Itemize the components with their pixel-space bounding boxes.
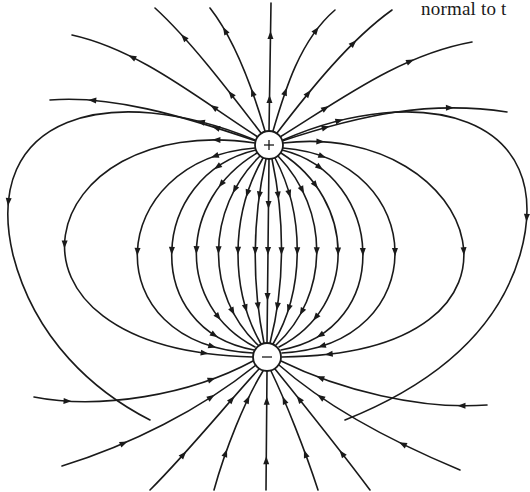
arrowhead-icon [316,138,324,144]
arrowhead-icon [228,307,237,317]
arrowhead-icon [243,395,252,405]
field-line-in-bottom [266,371,267,490]
arrowhead-icon [210,331,220,340]
arrowhead-icon [252,247,258,255]
arrowhead-icon [280,395,289,405]
arrowhead-icon [267,31,273,39]
arrowhead-icon [63,398,71,404]
arrowhead-icon [318,152,328,160]
arrowhead-icon [88,97,96,104]
arrowhead-icon [206,392,216,401]
arrowhead-icon [315,331,325,340]
field-line-loop-l1 [255,159,266,343]
arrowhead-icon [360,248,366,256]
arrowhead-icon [207,375,217,383]
arrowhead-icon [461,247,467,255]
negative-charge [253,343,281,371]
field-line-out-tr3 [280,42,472,137]
field-lines-into-negative [34,361,487,490]
field-line-loop-r1 [270,159,282,343]
arrowhead-icon [523,214,529,222]
field-line-in-bl1 [214,371,263,490]
arrowhead-icon [265,247,271,255]
arrowhead-icon [278,247,284,255]
arrowhead-icon [264,397,270,405]
arrowhead-icon [392,248,398,256]
field-line-in-br4 [281,361,487,406]
field-lines-from-positive [50,3,507,141]
arrowhead-icon [285,189,293,198]
arrowhead-icon [405,57,415,66]
dipole-field-diagram [0,0,530,492]
arrowhead-icon [243,189,251,198]
field-line-out-tl3 [72,35,258,137]
field-line-loop-r4 [279,153,338,347]
arrowhead-icon [127,53,137,62]
arrowhead-icon [210,152,220,160]
arrowhead-icon [297,307,306,317]
arrowhead-icon [255,302,262,311]
arrowhead-icon [212,137,220,143]
field-line-in-br2 [275,369,370,490]
field-line-out-tl4 [50,99,256,141]
field-line-in-bl2 [150,369,259,490]
arrowhead-icon [285,304,293,313]
arrowhead-icon [230,185,239,195]
arrowhead-icon [169,247,175,255]
arrowhead-icon [298,185,307,195]
arrowhead-icon [321,103,331,112]
field-line-loop-l7 [65,140,255,357]
arrowhead-icon [457,403,465,409]
arrowhead-icon [5,198,12,207]
arrowhead-icon [215,246,221,254]
field-line-out-tl1 [210,8,265,131]
arrowhead-icon [281,87,289,97]
field-line-loop-l5 [172,150,256,350]
arrowhead-icon [317,342,326,350]
arrowhead-icon [235,247,241,255]
arrowhead-icon [294,247,300,255]
arrowhead-icon [264,293,270,301]
arrowhead-icon [263,456,269,464]
field-line-loop-l4 [196,153,257,347]
arrowhead-icon [446,105,454,111]
arrowhead-icon [314,247,320,255]
arrowhead-icon [265,201,271,209]
arrowhead-icon [119,439,129,448]
positive-charge [255,131,283,159]
arrowhead-icon [248,88,256,98]
arrowhead-icon [266,95,272,103]
field-line-loop-r5 [281,150,363,350]
arrowhead-icon [335,247,341,255]
field-line-in-bl4 [34,361,253,402]
field-line-loop-l8 [8,112,255,420]
arrowhead-icon [315,374,325,382]
field-line-out-tr1 [273,10,335,131]
arrowhead-icon [398,440,408,449]
arrowhead-icon [301,449,309,459]
arrowhead-icon [324,351,333,358]
field-line-out-top [269,3,271,131]
arrowhead-icon [208,342,217,350]
arrowhead-icon [193,246,199,254]
arrowhead-icon [61,240,67,248]
arrowhead-icon [222,448,230,458]
arrowhead-icon [242,304,250,313]
arrowhead-icon [134,248,140,256]
arrowhead-icon [220,26,229,36]
field-line-in-br1 [271,371,318,490]
field-line-loop-r8 [283,112,527,420]
